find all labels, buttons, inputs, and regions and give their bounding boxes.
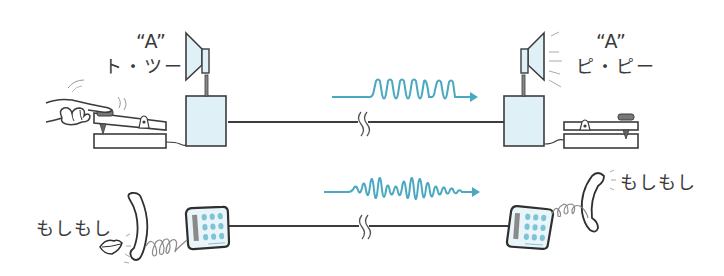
telephone-receiver-base: [507, 206, 554, 250]
telegraph-sender-key: [94, 110, 186, 148]
telephone-signal-wave: [324, 178, 480, 199]
receiver-letter-label: “A”: [596, 32, 627, 51]
sender-letter-label: “A”: [136, 32, 167, 51]
receiver-speech-label: もしもし: [620, 174, 696, 192]
telephone-sender-base: [186, 206, 231, 250]
sender-morse-kana-label: ト・ツー: [104, 58, 184, 76]
telegraph-signal-wave: [332, 80, 478, 103]
telephone-receiver-handset: [552, 170, 616, 232]
telephone-sender-handset: [128, 193, 187, 260]
telegraph-receiver-key: [544, 114, 638, 148]
sender-speech-label: もしもし: [36, 220, 112, 238]
telephone-wire: [229, 215, 508, 239]
telegraph-wire: [228, 112, 504, 136]
telegraph-receiver-sounder: [504, 32, 562, 146]
diagram-canvas: “A” ト・ツー “A” ピ・ピー もしもし もしもし: [0, 0, 724, 276]
receiver-morse-kana-label: ピ・ピー: [576, 58, 656, 76]
telegraph-sender-sounder: [186, 33, 226, 146]
